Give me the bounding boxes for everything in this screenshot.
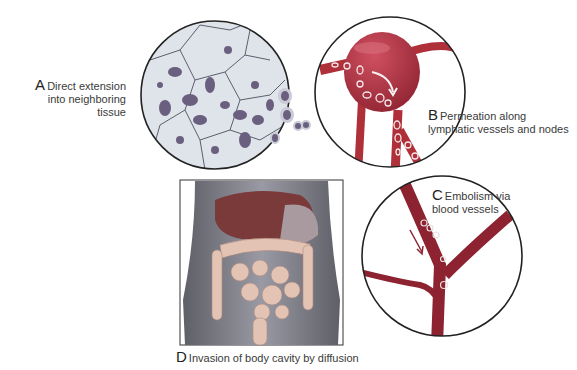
- label-b-letter: B: [428, 106, 438, 123]
- label-c-letter: C: [432, 186, 443, 203]
- label-c-line2: blood vessels: [432, 203, 499, 215]
- label-a-line1: Direct extension: [47, 80, 126, 92]
- label-d-letter: D: [176, 348, 187, 365]
- label-c-embolism: CEmbolism via blood vessels: [432, 188, 552, 216]
- label-c-line1: Embolism via: [445, 190, 510, 202]
- diagram-artwork: [0, 0, 577, 370]
- label-a-line2: into neighboring tissue: [48, 93, 126, 118]
- label-b-line2: lymphatic vessels and nodes: [428, 123, 569, 135]
- label-b-line1: Permeation along: [440, 110, 526, 122]
- label-d-invasion: DInvasion of body cavity by diffusion: [176, 350, 396, 365]
- label-b-permeation: BPermeation along lymphatic vessels and …: [428, 108, 577, 136]
- panel-d-abdomen-illustration: [180, 180, 343, 345]
- label-a-direct-extension: ADirect extension into neighboring tissu…: [20, 78, 126, 119]
- label-a-letter: A: [35, 76, 45, 93]
- panel-a-tissue-illustration: [141, 20, 311, 170]
- panel-b-lymph-node-illustration: [315, 17, 465, 175]
- label-d-line1: Invasion of body cavity by diffusion: [189, 352, 359, 364]
